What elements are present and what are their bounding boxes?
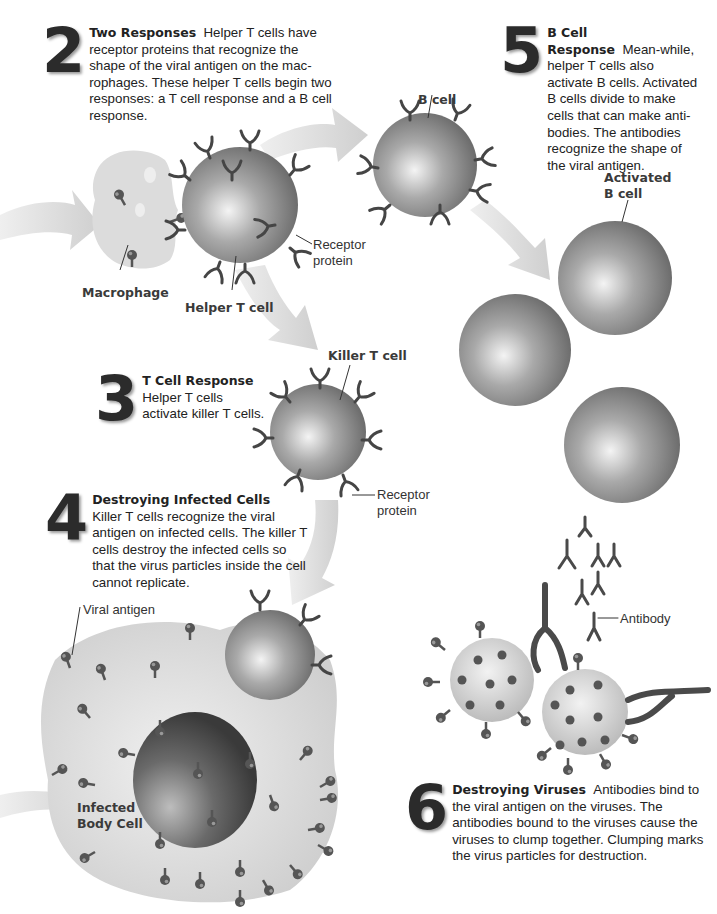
label-infected-body-cell: Infected Body Cell [77,800,152,832]
step-6-destroying-viruses: 6 Destroying Viruses Antibodies bind to … [405,782,705,865]
step-body: Killer T cells recognize the viral antig… [92,509,307,590]
label-helper-t-cell: Helper T cell [185,300,274,316]
b-cell [358,95,496,224]
step-title: T Cell Response [142,373,265,390]
step-number: 6 [405,782,446,834]
macrophage-cell [92,150,187,268]
free-antibodies [559,517,620,640]
label-receptor-protein-killer: Receptor protein [377,487,447,519]
arrow-to-activated-b-cells [470,200,550,280]
label-viral-antigen: Viral antigen [83,602,155,618]
step-number: 5 [500,25,541,77]
label-b-cell: B cell [418,92,456,108]
step-title: Two Responses [89,25,196,40]
step-number: 3 [95,373,136,425]
step-title: B Cell Response [547,25,615,57]
label-receptor-protein-helper: Receptor protein [313,237,383,269]
step-2-two-responses: 2 Two Responses Helper T cells have rece… [42,25,332,125]
step-body: Helper T cells activate killer T cells. [142,390,264,422]
step-5-b-cell-response: 5 B Cell Response Mean-while, helper T c… [500,25,700,174]
step-4-destroying-infected-cells: 4 Destroying Infected CellsKiller T cell… [45,492,310,592]
step-title: Destroying Infected Cells [92,492,310,509]
step-3-t-cell-response: 3 T Cell ResponseHelper T cells activate… [95,373,265,425]
label-activated-b-cell: Activated B cell [604,170,674,202]
step-body: Mean-while, helper T cells also activate… [547,42,697,173]
killer-t-cell [254,365,381,496]
infected-body-cell [41,591,338,907]
arrow-into-macrophage [0,190,100,250]
step-title: Destroying Viruses [452,782,586,797]
label-macrophage: Macrophage [82,285,169,301]
label-killer-t-cell: Killer T cell [328,348,407,364]
label-antibody: Antibody [620,611,671,627]
step-number: 4 [45,492,86,544]
step-number: 2 [42,25,83,77]
activated-b-cells [459,200,680,503]
